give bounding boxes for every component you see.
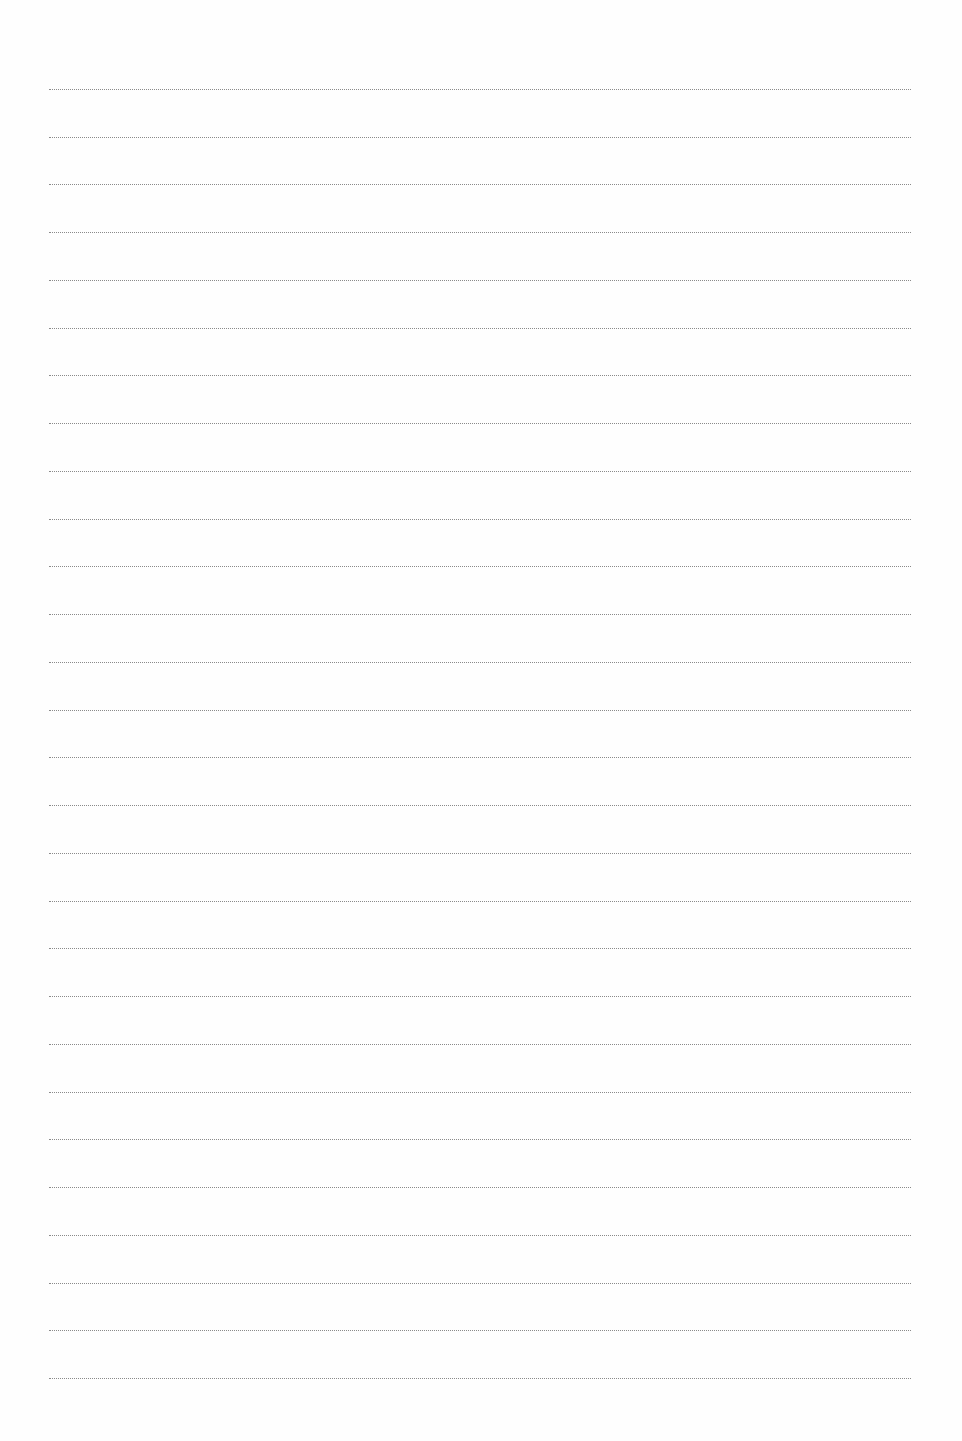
ruled-line (49, 280, 911, 281)
ruled-line (49, 471, 911, 472)
lined-page (0, 0, 962, 1441)
ruled-line (49, 1283, 911, 1284)
ruled-line (49, 423, 911, 424)
ruled-line (49, 566, 911, 567)
ruled-line (49, 1044, 911, 1045)
ruled-line (49, 89, 911, 90)
ruled-line (49, 1235, 911, 1236)
ruled-line (49, 614, 911, 615)
ruled-line (49, 519, 911, 520)
ruled-line (49, 996, 911, 997)
ruled-line (49, 901, 911, 902)
ruled-line (49, 757, 911, 758)
ruled-line (49, 710, 911, 711)
ruled-line (49, 805, 911, 806)
ruled-line (49, 328, 911, 329)
ruled-line (49, 1187, 911, 1188)
ruled-line (49, 375, 911, 376)
ruled-line (49, 184, 911, 185)
ruled-line (49, 662, 911, 663)
ruled-line (49, 232, 911, 233)
ruled-line (49, 1378, 911, 1379)
ruled-line (49, 1092, 911, 1093)
ruled-line (49, 1330, 911, 1331)
ruled-line (49, 137, 911, 138)
ruled-line (49, 1139, 911, 1140)
ruled-line (49, 853, 911, 854)
ruled-line (49, 948, 911, 949)
